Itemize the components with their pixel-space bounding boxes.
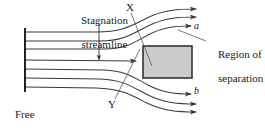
streamline-b-label: b (194, 85, 199, 97)
point-x-label: X (126, 1, 134, 13)
stagnation-label-line2: streamline (82, 38, 128, 50)
streamline-a-label: a (194, 20, 199, 32)
free-stream-label-line1: Free (15, 108, 35, 120)
flow-separation-figure: Stagnation streamline X Y a b Region of … (0, 0, 265, 128)
region-label-line2: separation (218, 72, 263, 84)
region-of-separation-label: Region of separation (207, 36, 265, 96)
region-leader-line (178, 30, 206, 41)
free-stream-label: Free stream (4, 96, 60, 128)
stagnation-label-line1: Stagnation (81, 14, 128, 26)
region-label-line1: Region of (218, 48, 262, 60)
point-y-label: Y (108, 98, 116, 110)
